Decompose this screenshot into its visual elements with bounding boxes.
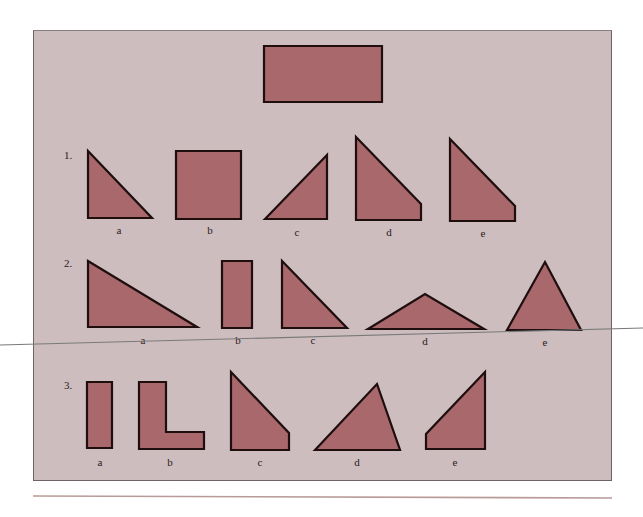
option-label: c (258, 456, 263, 468)
option-2a: a (88, 261, 197, 346)
right-triangle-shape (88, 151, 152, 218)
option-label: e (453, 456, 458, 468)
trapezoid-shape (450, 139, 515, 221)
option-1c: c (265, 155, 327, 238)
row-number: 2. (64, 257, 73, 269)
option-3a: a (87, 382, 112, 468)
option-2b: b (222, 261, 252, 346)
option-1a: a (88, 151, 152, 236)
option-label: b (207, 224, 213, 236)
option-2d: d (368, 294, 484, 347)
option-label: d (354, 456, 360, 468)
option-label: b (167, 456, 173, 468)
rectangle-shape (222, 261, 252, 328)
option-label: d (386, 226, 392, 238)
scalene-triangle-shape (315, 384, 400, 450)
acute-triangle-shape (507, 262, 581, 330)
option-1e: e (450, 139, 515, 239)
option-3b: b (139, 382, 204, 468)
option-label: d (422, 335, 428, 347)
option-label: e (543, 336, 548, 348)
option-label: c (311, 334, 316, 346)
option-label: c (295, 226, 300, 238)
option-3d: d (315, 384, 400, 468)
row-number: 1. (64, 149, 73, 161)
l-shape-shape (139, 382, 204, 449)
trapezoid-shape (356, 137, 421, 220)
answer-row-3: 3.abcde (64, 372, 485, 468)
option-3c: c (231, 372, 289, 468)
right-triangle-shape (88, 261, 197, 327)
option-3e: e (426, 372, 485, 468)
trapezoid-shape (231, 372, 289, 450)
option-2c: c (282, 261, 347, 346)
option-1d: d (356, 137, 421, 238)
square-shape (176, 151, 241, 219)
obtuse-triangle-shape (368, 294, 484, 329)
option-2e: e (507, 262, 581, 348)
rectangle-shape (87, 382, 112, 448)
option-1b: b (176, 151, 241, 236)
answer-rows: 1.abcde2.abcde3.abcde (64, 137, 581, 468)
option-label: a (98, 456, 103, 468)
right-triangle-shape (265, 155, 327, 219)
option-label: a (141, 334, 146, 346)
answer-row-1: 1.abcde (64, 137, 515, 239)
reference-rectangle (264, 46, 382, 102)
option-label: e (481, 227, 486, 239)
bottom-rule (33, 496, 612, 498)
right-triangle-shape (282, 261, 347, 328)
answer-row-2: 2.abcde (64, 257, 581, 348)
option-label: a (117, 224, 122, 236)
shape-puzzle-figure: 1.abcde2.abcde3.abcde (0, 0, 643, 517)
trapezoid-shape (426, 372, 485, 449)
row-number: 3. (64, 379, 73, 391)
option-label: b (235, 334, 241, 346)
